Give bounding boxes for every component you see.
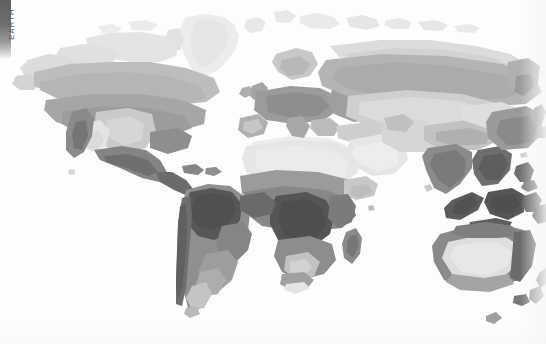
region-australia (432, 222, 536, 306)
atlas-page: EARTH (0, 0, 546, 344)
section-tab-label: EARTH (6, 0, 18, 48)
world-climate-map (0, 0, 546, 344)
